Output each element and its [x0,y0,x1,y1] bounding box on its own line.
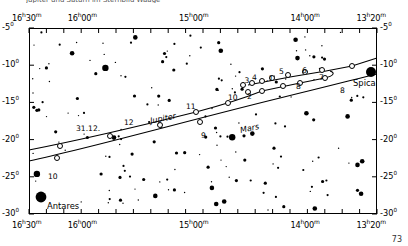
star-dot [235,179,238,182]
star-dot [133,35,138,40]
y-tick-label-left: -300 [2,207,19,218]
star-dot [312,118,315,121]
jupiter-date-marker [58,144,63,149]
star-dot [275,80,278,83]
jupiter-marker-label: 6 [302,66,307,75]
mars-marker-label: 10 [48,172,58,181]
x-tick-label-top: 16h00m [68,11,97,23]
star-dot [102,43,103,44]
star-dot [338,148,339,149]
jupiter-marker-label: 5 [279,67,284,76]
star-dot [172,68,175,71]
jupiter-marker-label: 31.12. [76,124,100,133]
x-tick-label-bottom: 15h00m [179,218,208,230]
star-dot [274,122,276,124]
star-dot [230,64,231,65]
star-dot [168,189,169,190]
star-dot [226,136,228,138]
star-dot [360,159,365,164]
x-tick-label-top: 14h00m [290,11,319,23]
star-dot [250,179,252,181]
star-dot [235,151,236,152]
star-dot [275,196,277,198]
star-dot [46,116,47,117]
x-tick-label-top: 15h00m [179,11,208,23]
star-dot [122,203,123,204]
star-dot [217,41,220,44]
star-dot [321,57,323,59]
star-dot [280,156,282,158]
star-dot [161,60,164,63]
y-tick-label-left: -50 [2,21,14,32]
star-dot [83,112,85,114]
star-dot [158,104,159,105]
jupiter-date-marker [260,89,265,94]
star-dot [218,78,220,80]
star-dot [345,114,350,119]
star-dot [109,198,111,200]
star-dot [130,42,132,44]
star-dot [168,99,171,102]
star-dot [311,186,313,188]
star-dot [214,126,217,129]
star-dot [226,166,227,167]
y-tick-label-right: -50 [380,21,392,32]
star-dot [304,111,309,116]
star-dot [327,194,329,196]
star-dot [355,163,360,168]
jupiter-date-marker [320,68,325,73]
jupiter-date-marker [286,73,291,78]
star-dot [119,199,122,202]
star-dot [133,94,136,97]
star-dot [272,163,273,164]
jupiter-marker-label: 11 [186,102,196,111]
mars-marker-label: 8 [340,86,345,95]
jupiter-marker-label: .3 [242,76,249,85]
y-tick-label-left: -200 [2,133,19,144]
star-dot [89,60,90,61]
star-dot [219,135,221,137]
star-dot [302,169,304,171]
star-dot [321,180,324,183]
star-dot [220,159,221,160]
star-dot [216,132,217,133]
star-dot [173,43,175,45]
star-dot [67,112,68,113]
star-dot [59,44,61,46]
star-dot [94,72,97,75]
jupiter-date-marker [260,79,265,84]
star-dot [159,181,160,182]
star-dot [153,194,158,199]
star-dot [293,37,298,42]
star-dot [32,92,33,93]
star-dot [272,147,275,150]
star-dot [184,192,185,193]
track-date-markers [55,64,355,161]
x-tick-label-bottom: 16h00m [68,218,97,230]
star-dot [282,205,285,208]
star-dot [285,78,286,79]
star-dot [174,169,175,170]
star-dot [115,62,116,63]
star-dot [189,55,190,56]
star-dot [124,170,126,172]
star-dot [238,71,240,73]
star-dot [32,153,33,154]
page-number: 73 [392,235,402,244]
star-dot [318,156,320,158]
star-dot [295,56,300,61]
star-dot [211,181,212,182]
star-label-antares: Antares [47,201,79,211]
star-dot [104,54,105,55]
star-dot [108,156,110,158]
star-dot [279,95,281,97]
star-dot [321,45,322,46]
star-dot [312,161,313,162]
star-dot [222,199,227,204]
star-dot [102,65,108,71]
star-dot [45,66,48,69]
star-dot [122,165,124,167]
star-dot [175,151,178,154]
x-tick-label-bottom: 16h30m [12,218,41,230]
mars-date-marker [198,120,203,125]
